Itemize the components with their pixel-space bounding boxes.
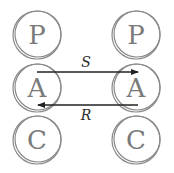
arrow-s-label: S bbox=[81, 54, 91, 70]
right-node-c-label: C bbox=[126, 125, 146, 155]
pac-diagram: P A C P A C S R bbox=[0, 0, 174, 173]
right-node-c: C bbox=[112, 116, 160, 164]
arrow-r-label: R bbox=[80, 107, 92, 123]
right-node-a-label: A bbox=[126, 73, 147, 103]
left-node-c: C bbox=[13, 116, 61, 164]
left-node-p: P bbox=[13, 11, 61, 59]
left-node-a-label: A bbox=[27, 73, 48, 103]
right-node-p: P bbox=[112, 11, 160, 59]
left-node-p-label: P bbox=[28, 20, 46, 50]
left-node-c-label: C bbox=[27, 125, 47, 155]
right-node-p-label: P bbox=[127, 20, 145, 50]
